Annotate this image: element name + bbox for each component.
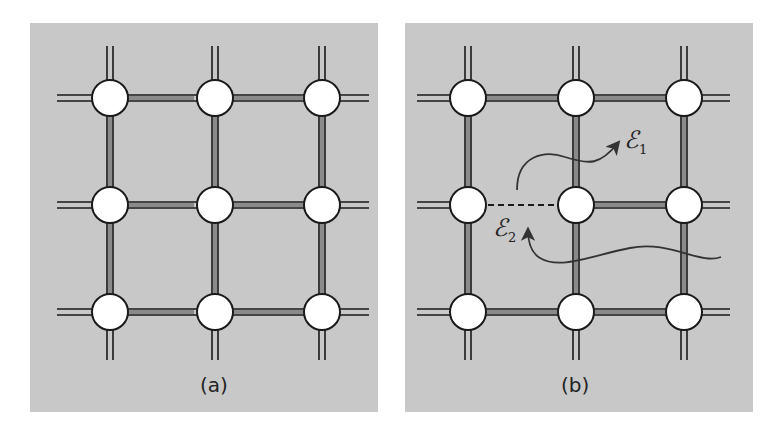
epsilon2-arrow bbox=[528, 230, 721, 263]
lattice-diagram bbox=[0, 0, 781, 435]
epsilon2-label: ℰ2 bbox=[493, 214, 516, 245]
caption-a: (a) bbox=[200, 373, 228, 397]
epsilon1-arrow bbox=[517, 143, 618, 190]
caption-b: (b) bbox=[561, 373, 589, 397]
epsilon1-label: ℰ1 bbox=[624, 126, 647, 157]
